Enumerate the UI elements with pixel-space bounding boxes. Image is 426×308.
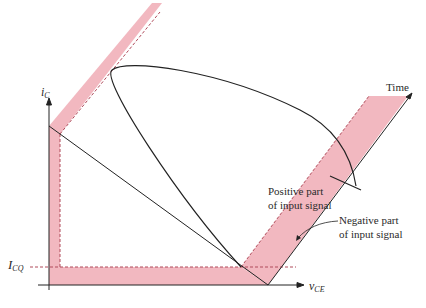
negative-label-line1: Negative part <box>339 213 403 227</box>
positive-label-line2: of input signal <box>268 198 332 212</box>
time-label: Time <box>386 82 409 93</box>
x-axis-arrow-icon <box>297 283 304 288</box>
load-line-diagram: iC ICQ vCE Time Positive part of input s… <box>0 0 426 308</box>
signal-bands <box>49 3 408 285</box>
time-arrow-icon <box>406 93 412 99</box>
positive-signal-label: Positive part of input signal <box>268 184 332 212</box>
negative-label-line2: of input signal <box>339 227 403 241</box>
diagram-canvas <box>0 0 426 308</box>
upper-diagonal-band <box>49 3 162 134</box>
y-axis-subscript: C <box>44 91 49 100</box>
x-axis-label: vCE <box>309 280 325 294</box>
icq-subscript: CQ <box>12 264 23 273</box>
positive-label-line1: Positive part <box>268 184 332 198</box>
vertical-band <box>49 126 60 285</box>
x-axis-subscript: CE <box>314 285 324 294</box>
negative-signal-label: Negative part of input signal <box>339 213 403 241</box>
dashed-guides <box>30 12 369 267</box>
y-axis-label: iC <box>41 86 50 100</box>
quiescent-current-label: ICQ <box>8 258 23 273</box>
horizontal-band <box>49 267 268 285</box>
